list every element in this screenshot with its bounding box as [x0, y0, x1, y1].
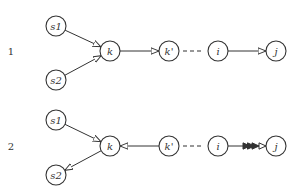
node-kp: k': [159, 41, 179, 61]
diagram-number-label: 2: [8, 141, 14, 152]
node-label: k: [107, 46, 113, 57]
diagram-canvas: s1s2kk'ijs1s2kk'ij 12: [0, 0, 297, 192]
node-label: i: [216, 141, 219, 152]
node-label: s2: [50, 75, 62, 86]
node-s2: s2: [46, 165, 66, 185]
node-j: j: [266, 136, 286, 156]
node-label: k': [165, 141, 174, 152]
node-s2: s2: [46, 70, 66, 90]
node-label: s1: [50, 21, 62, 32]
node-label: k': [165, 46, 174, 57]
edge-s1-to-k: [65, 30, 101, 47]
node-label: i: [216, 46, 219, 57]
node-k: k: [100, 136, 120, 156]
node-s1: s1: [46, 110, 66, 130]
edge-i-to-j: [228, 143, 266, 149]
node-j: j: [266, 41, 286, 61]
edge-s2-to-k: [65, 56, 101, 76]
diagram-number-label: 1: [8, 46, 14, 57]
node-k: k: [100, 41, 120, 61]
node-label: s2: [50, 170, 62, 181]
node-kp: k': [159, 136, 179, 156]
node-i: i: [208, 136, 228, 156]
edge-k-to-s2: [65, 151, 101, 171]
node-i: i: [208, 41, 228, 61]
row-labels-layer: 12: [8, 46, 14, 152]
node-label: s1: [50, 115, 62, 126]
edge-s1-to-k: [65, 124, 101, 141]
nodes-layer: s1s2kk'ijs1s2kk'ij: [46, 16, 286, 185]
node-label: k: [107, 141, 113, 152]
node-s1: s1: [46, 16, 66, 36]
